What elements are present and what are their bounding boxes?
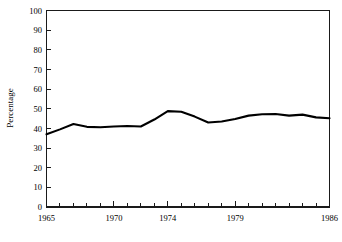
y-axis-title: Percentage [5, 88, 15, 127]
plot-frame [47, 11, 330, 208]
x-axis: 19651970197419791986 [38, 201, 338, 223]
y-tick-label: 50 [34, 104, 43, 114]
y-tick-label: 10 [34, 182, 43, 192]
x-tick-label: 1970 [105, 213, 122, 223]
y-tick-label: 30 [34, 143, 43, 153]
y-tick-label: 20 [34, 163, 43, 173]
y-tick-label: 80 [34, 45, 43, 55]
x-tick-label: 1974 [159, 213, 177, 223]
figure-caption [0, 232, 342, 242]
data-series-group [47, 111, 330, 134]
y-tick-label: 0 [38, 202, 42, 212]
y-tick-label: 90 [34, 25, 43, 35]
chart-container: 0102030405060708090100 19651970197419791… [0, 0, 342, 242]
data-line-percentage [47, 111, 330, 134]
y-tick-label: 60 [34, 84, 43, 94]
y-axis: 0102030405060708090100 [29, 6, 50, 213]
x-tick-label: 1979 [227, 213, 244, 223]
line-chart: 0102030405060708090100 19651970197419791… [0, 0, 342, 242]
y-tick-label: 70 [34, 65, 43, 75]
y-tick-label: 100 [29, 6, 42, 16]
y-tick-label: 40 [34, 124, 43, 134]
x-tick-label: 1965 [38, 213, 55, 223]
x-tick-label: 1986 [321, 213, 338, 223]
